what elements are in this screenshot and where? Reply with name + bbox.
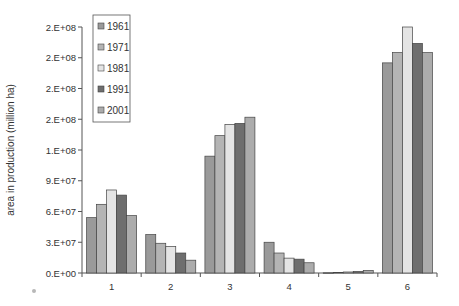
bar-1991-cat-1 [117, 195, 127, 273]
legend-swatch-1971 [98, 44, 104, 50]
bar-1971-cat-3 [215, 136, 225, 273]
legend-label: 1981 [107, 63, 130, 74]
bar-1981-cat-4 [284, 258, 294, 273]
legend-label: 2001 [107, 105, 130, 116]
bar-1981-cat-5 [343, 272, 353, 273]
bar-1971-cat-5 [333, 272, 343, 273]
legend-label: 1991 [107, 84, 130, 95]
legend-swatch-1991 [98, 86, 104, 92]
x-tick-label: 4 [286, 281, 291, 292]
x-tick-label: 3 [227, 281, 232, 292]
bar-1961-cat-4 [264, 242, 274, 273]
bar-2001-cat-2 [186, 260, 196, 273]
y-tick-label: 3.E+07 [46, 237, 76, 248]
bar-2001-cat-6 [422, 53, 432, 273]
bar-1961-cat-6 [382, 63, 392, 273]
bars [87, 27, 433, 273]
y-tick-label: 9.E+07 [46, 175, 76, 186]
y-tick-label: 2.E+08 [46, 114, 76, 125]
legend-swatch-1981 [98, 65, 104, 71]
decorative-dot [32, 289, 36, 293]
x-tick-label: 2 [168, 281, 173, 292]
bar-1971-cat-1 [97, 204, 107, 273]
bar-1981-cat-2 [166, 246, 176, 273]
bar-1991-cat-5 [353, 271, 363, 273]
legend-swatch-1961 [98, 23, 104, 29]
x-tick-label: 6 [405, 281, 410, 292]
y-tick-label: 0.E+00 [46, 268, 76, 279]
bar-2001-cat-1 [127, 216, 137, 273]
bar-1961-cat-2 [146, 235, 156, 273]
y-axis-label: area in production (million ha) [5, 84, 16, 216]
y-tick-label: 2.E+08 [46, 22, 76, 33]
bar-1991-cat-3 [235, 123, 245, 273]
bar-1961-cat-3 [205, 156, 215, 273]
bar-1971-cat-2 [156, 243, 166, 273]
bar-2001-cat-4 [304, 263, 314, 273]
legend: 19611971198119912001 [93, 15, 130, 122]
legend-swatch-2001 [98, 107, 104, 113]
bar-chart: area in production (million ha) 0.E+003.… [0, 0, 459, 306]
y-tick-label: 6.E+07 [46, 206, 76, 217]
bar-1971-cat-4 [274, 253, 284, 273]
y-tick-label: 1.E+08 [46, 145, 76, 156]
legend-label: 1971 [107, 42, 130, 53]
y-axis: 0.E+003.E+076.E+079.E+071.E+082.E+082.E+… [46, 22, 82, 279]
x-tick-label: 1 [109, 281, 114, 292]
y-tick-label: 2.E+08 [46, 83, 76, 94]
bar-1971-cat-6 [392, 53, 402, 273]
x-tick-label: 5 [346, 281, 351, 292]
bar-2001-cat-3 [245, 117, 255, 273]
bar-1961-cat-1 [87, 218, 97, 273]
bar-1981-cat-6 [402, 27, 412, 273]
y-axis-title: area in production (million ha) [5, 84, 16, 216]
legend-label: 1961 [107, 21, 130, 32]
x-axis: 123456 [82, 273, 437, 292]
bar-1991-cat-6 [412, 43, 422, 273]
bar-1961-cat-5 [323, 273, 333, 274]
bar-1991-cat-4 [294, 259, 304, 273]
bar-1991-cat-2 [176, 253, 186, 273]
bar-2001-cat-5 [363, 270, 373, 273]
bar-1981-cat-3 [225, 124, 235, 273]
bar-1981-cat-1 [107, 190, 117, 273]
y-tick-label: 2.E+08 [46, 52, 76, 63]
